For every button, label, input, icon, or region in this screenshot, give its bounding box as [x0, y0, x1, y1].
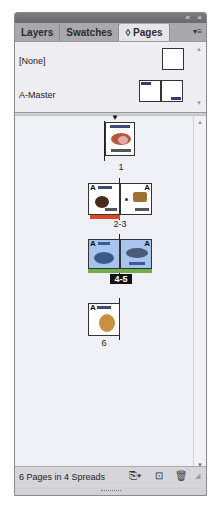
page-text-bar — [111, 149, 131, 152]
tab-swatches[interactable]: Swatches — [60, 24, 119, 41]
tab-layers[interactable]: Layers — [15, 24, 60, 41]
pages-panel: « × Layers Swatches ◊ Pages ▾≡ [None] A-… — [14, 12, 207, 496]
page-5-thumbnail[interactable]: A — [120, 239, 152, 269]
trash-icon[interactable]: 🗑 — [175, 471, 185, 481]
page-dot — [125, 198, 128, 201]
page-image — [94, 252, 114, 264]
page-2-thumbnail[interactable]: A — [88, 183, 120, 215]
spread-label-2-3[interactable]: 2-3 — [108, 219, 132, 229]
master-a-badge: A — [90, 304, 96, 312]
page-image — [126, 248, 148, 258]
color-label-green — [88, 269, 152, 273]
master-a-badge: A — [144, 240, 150, 248]
status-text: 6 Pages in 4 Spreads — [19, 472, 105, 482]
master-a-badge: A — [144, 184, 150, 192]
panel-footer: 6 Pages in 4 Spreads ⎘▾ ⊡ 🗑 ◢ — [15, 466, 206, 487]
master-none[interactable]: [None] — [19, 56, 46, 66]
collapse-icon[interactable]: « — [186, 13, 190, 23]
page-image-detail — [118, 136, 128, 144]
master-a-left-thumbnail[interactable] — [139, 80, 161, 102]
new-page-icon[interactable]: ⊡ — [155, 471, 165, 481]
close-icon[interactable]: × — [197, 13, 202, 23]
masters-scroll-up-icon[interactable]: ▲ — [196, 46, 202, 52]
spread-label-4-5[interactable]: 4-5 — [110, 274, 132, 284]
tab-pages[interactable]: ◊ Pages — [119, 24, 169, 41]
panel-menu-icon[interactable]: ▾≡ — [193, 27, 202, 36]
spread-label-1[interactable]: 1 — [111, 162, 131, 172]
panel-resize-handle[interactable] — [15, 487, 206, 495]
masters-section: [None] A-Master ▲ ▼ — [15, 42, 206, 113]
target-spread-icon: ▼ — [111, 114, 119, 122]
master-a-badge: A — [90, 240, 96, 248]
resize-grip-icon[interactable]: ◢ — [195, 471, 205, 481]
page-image — [99, 314, 115, 332]
page-1-thumbnail[interactable] — [105, 122, 135, 156]
master-a-badge: A — [90, 184, 96, 192]
pages-section: ▼ 1 A A 2-3 A — [15, 116, 206, 471]
master-a[interactable]: A-Master — [19, 90, 56, 100]
page-image — [133, 192, 147, 202]
panel-titlebar: « × — [15, 13, 206, 23]
page-6-thumbnail[interactable]: A — [88, 303, 120, 336]
master-a-right-thumbnail[interactable] — [161, 80, 183, 102]
page-4-thumbnail[interactable]: A — [88, 239, 120, 269]
edit-page-size-icon[interactable]: ⎘▾ — [129, 471, 145, 481]
spread-label-6[interactable]: 6 — [94, 338, 114, 348]
panel-tabs: Layers Swatches ◊ Pages ▾≡ — [15, 23, 206, 42]
scroll-up-icon[interactable]: ▲ — [197, 119, 203, 125]
pages-scrollbar[interactable]: ▲ ▼ — [193, 116, 206, 471]
master-none-thumbnail[interactable] — [162, 48, 184, 70]
page-image — [95, 196, 109, 208]
page-3-thumbnail[interactable]: A — [120, 183, 152, 215]
masters-scroll-down-icon[interactable]: ▼ — [196, 100, 202, 106]
